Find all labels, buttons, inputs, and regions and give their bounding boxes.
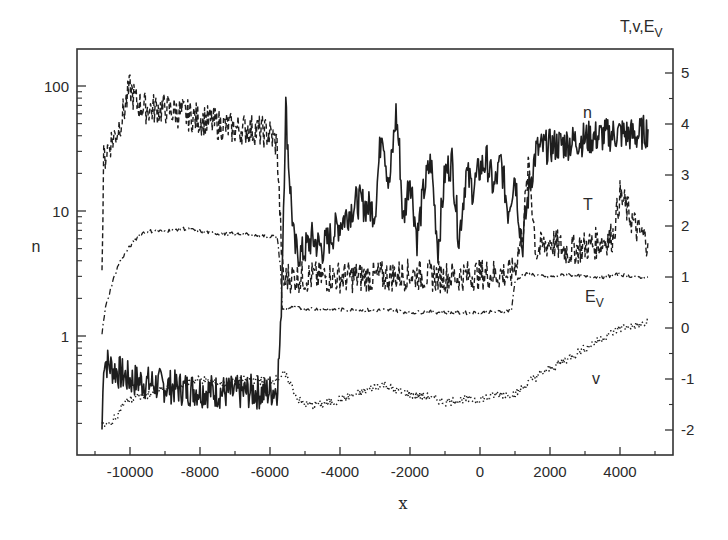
right-tick-label: -1 [681,370,694,387]
curve-label-Ev: EV [585,288,604,310]
curve-label-T: T [583,196,593,213]
x-tick-label: -8000 [181,463,219,480]
right-tick-label: 3 [681,166,689,183]
chart: -10000-8000-6000-4000-2000020004000 1101… [0,0,728,540]
right-axis-title-sub: V [654,26,662,40]
x-axis: -10000-8000-6000-4000-2000020004000 [95,447,655,480]
left-axis-title: n [32,238,41,255]
data-series [102,75,648,430]
right-axis-title: T,v,EV [620,18,662,40]
series-t [102,75,648,293]
x-tick-label: 2000 [533,463,566,480]
x-tick-label: -6000 [251,463,289,480]
left-tick-label: 10 [52,203,69,220]
series-e-v [102,227,648,334]
right-y-axis: -2-1012345 [665,64,694,438]
curve-label-Ev-sub: V [596,296,604,310]
x-tick-label: -4000 [321,463,359,480]
x-tick-label: 4000 [603,463,636,480]
right-tick-label: 1 [681,268,689,285]
series-v [102,319,648,426]
right-axis-title-main: T,v,E [620,18,654,35]
x-tick-label: -2000 [391,463,429,480]
curve-label-Ev-main: E [585,288,596,305]
x-axis-title: x [398,494,407,513]
curve-label-v: v [592,370,600,387]
right-tick-label: 0 [681,319,689,336]
left-tick-label: 100 [44,78,69,95]
right-tick-label: 5 [681,64,689,81]
right-tick-label: 4 [681,115,689,132]
left-y-axis: 110100 [44,78,86,423]
x-tick-label: 0 [476,463,484,480]
right-tick-label: -2 [681,421,694,438]
right-tick-label: 2 [681,217,689,234]
curve-label-n: n [583,104,592,121]
series-n [102,97,648,429]
x-tick-label: -10000 [107,463,154,480]
left-tick-label: 1 [61,328,69,345]
